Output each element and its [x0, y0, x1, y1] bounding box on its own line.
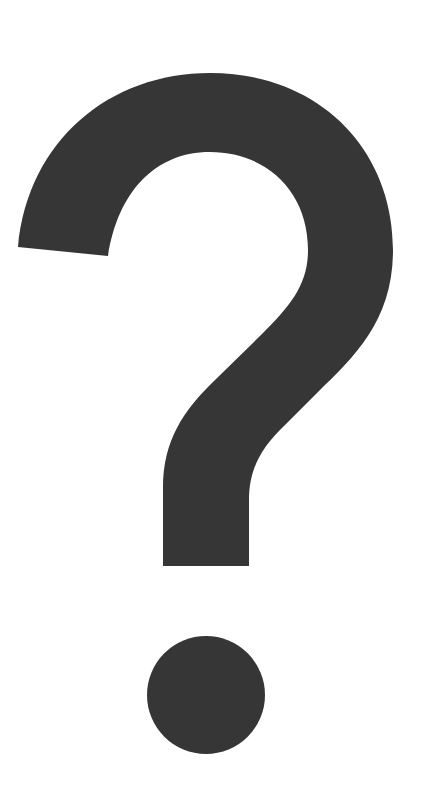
question-mark-hook — [18, 73, 393, 566]
question-mark-glyph — [18, 73, 393, 754]
question-mark-dot — [147, 636, 265, 754]
question-mark-icon — [0, 0, 434, 793]
question-mark-canvas: ? — [0, 0, 434, 793]
